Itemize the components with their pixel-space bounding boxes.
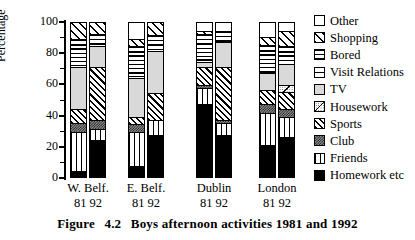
legend-swatch-homework-icon	[314, 170, 325, 181]
legend-swatch-sports-icon	[314, 118, 325, 129]
stacked-bar	[128, 22, 145, 178]
stacked-bar	[259, 22, 276, 178]
bar-segment-homework	[129, 166, 144, 178]
stacked-bar	[70, 22, 87, 178]
bar-segment-sports	[279, 92, 294, 109]
bar-segment-homework	[90, 140, 105, 178]
legend-label: Shopping	[330, 32, 378, 44]
bar-segment-bored	[216, 31, 231, 42]
bar-segment-club	[129, 124, 144, 132]
bar-segment-visit_relations	[129, 73, 144, 78]
bar-segment-tv	[129, 78, 144, 117]
bar-segment-sports	[129, 117, 144, 125]
bar-segment-sports	[197, 67, 212, 86]
bar-segment-shopping	[90, 23, 105, 34]
legend-label: Bored	[330, 49, 361, 61]
bar-segment-visit_relations	[197, 56, 212, 62]
legend-swatch-bored-icon	[314, 49, 325, 60]
bar-segment-friends	[197, 88, 212, 104]
bar-segment-sports	[216, 67, 231, 120]
legend-label: Club	[330, 135, 354, 147]
bar-segment-sports	[260, 90, 275, 104]
bar-segment-friends	[129, 132, 144, 166]
bar-segment-club	[260, 104, 275, 113]
bar-segment-other	[260, 23, 275, 37]
y-tick-major	[59, 115, 64, 117]
legend-item-tv: TV	[314, 81, 414, 98]
group-years-label: 81 92	[232, 196, 322, 211]
bar-segment-bored	[197, 34, 212, 56]
bar-segment-other	[216, 23, 231, 31]
bar-segment-tv	[279, 64, 294, 86]
stacked-bar	[147, 22, 164, 178]
y-tick-minor	[60, 37, 64, 38]
bar-segment-homework	[216, 135, 231, 178]
bar-segment-homework	[260, 145, 275, 178]
legend-label: Housework	[330, 101, 388, 113]
y-tick-minor	[60, 162, 64, 163]
bar-segment-friends	[216, 123, 231, 135]
legend-item-club: Club	[314, 132, 414, 149]
bar-segment-other	[129, 23, 144, 39]
bar-segment-tv	[260, 73, 275, 90]
bar-segment-friends	[260, 113, 275, 144]
bar-segment-shopping	[129, 39, 144, 47]
bar-segment-sports	[90, 67, 105, 120]
bar-segment-bored	[260, 45, 275, 73]
stacked-bar	[196, 22, 213, 178]
legend-swatch-visit_relations-icon	[314, 67, 325, 78]
figure-4-2-chart: Percentage 020406080100 W. Belf.81 92E. …	[0, 0, 415, 240]
bar-segment-other	[279, 23, 294, 31]
bar-segment-tv	[71, 67, 86, 109]
bar-segment-bored	[279, 46, 294, 63]
stacked-bar	[89, 22, 106, 178]
bar-segment-tv	[216, 42, 231, 67]
bar-segment-homework	[279, 137, 294, 178]
bar-segment-club	[71, 123, 86, 132]
legend-item-homework: Homework etc	[314, 167, 414, 184]
y-tick-major	[59, 177, 64, 179]
bar-segment-shopping	[279, 31, 294, 47]
legend-item-visit_relations: Visit Relations	[314, 64, 414, 81]
bar-segment-friends	[90, 129, 105, 140]
y-tick-major	[59, 83, 64, 85]
y-tick-label-20: 20	[46, 141, 58, 151]
y-tick-label-40: 40	[46, 110, 58, 120]
bar-segment-sports	[148, 93, 163, 120]
figure-caption: Figure 4.2 Boys afternoon activities 198…	[0, 216, 415, 232]
y-tick-label-80: 80	[46, 47, 58, 57]
y-tick-major	[59, 52, 64, 54]
y-axis-tick-labels: 020406080100	[0, 0, 58, 200]
bar-segment-sports	[71, 109, 86, 123]
caption-number: 4.2	[104, 216, 121, 231]
legend-swatch-club-icon	[314, 135, 325, 146]
y-tick-major	[59, 21, 64, 23]
legend-swatch-friends-icon	[314, 153, 325, 164]
legend: OtherShoppingBoredVisit RelationsTVHouse…	[314, 12, 414, 184]
bar-segment-tv	[90, 46, 105, 66]
legend-item-sports: Sports	[314, 115, 414, 132]
bar-segment-shopping	[71, 23, 86, 39]
y-tick-major	[59, 146, 64, 148]
legend-swatch-other-icon	[314, 15, 325, 26]
bar-segment-other	[197, 23, 212, 31]
bar-segment-bored	[90, 34, 105, 46]
bar-segment-friends	[71, 132, 86, 171]
bar-segment-club	[279, 109, 294, 117]
bar-segment-friends	[148, 120, 163, 136]
caption-label: Figure	[57, 216, 95, 231]
y-tick-label-60: 60	[46, 78, 58, 88]
bar-segment-bored	[71, 39, 86, 67]
legend-label: Sports	[330, 118, 362, 130]
legend-label: TV	[330, 83, 347, 95]
bar-segment-homework	[71, 171, 86, 178]
legend-item-shopping: Shopping	[314, 29, 414, 46]
bar-segment-bored	[148, 35, 163, 51]
bar-segment-friends	[279, 117, 294, 137]
y-tick-minor	[60, 100, 64, 101]
bar-segment-homework	[148, 135, 163, 178]
y-tick-minor	[60, 131, 64, 132]
legend-item-other: Other	[314, 12, 414, 29]
bar-segment-club	[90, 120, 105, 129]
bar-segment-shopping	[148, 23, 163, 35]
